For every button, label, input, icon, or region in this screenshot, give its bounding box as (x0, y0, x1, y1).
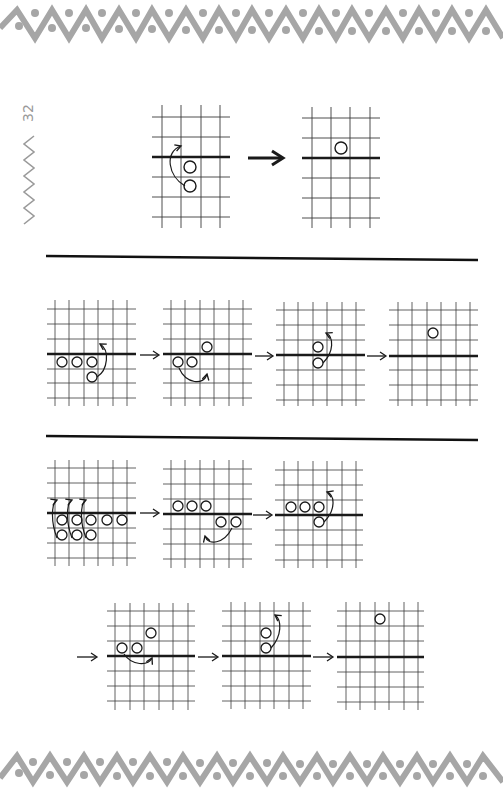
chip (87, 357, 97, 367)
chip (86, 530, 96, 540)
chip (117, 643, 127, 653)
chip (261, 628, 271, 638)
chip (314, 502, 324, 512)
chip (87, 372, 97, 382)
chip (184, 161, 196, 173)
chip (173, 501, 183, 511)
chip (313, 358, 323, 368)
chip (231, 517, 241, 527)
move-arrow (324, 492, 333, 522)
chip (314, 517, 324, 527)
chip (72, 530, 82, 540)
chip (300, 502, 310, 512)
section-1 (152, 105, 380, 228)
chip (286, 502, 296, 512)
chip (132, 643, 142, 653)
chip (184, 180, 196, 192)
chip (187, 357, 197, 367)
section-divider (46, 436, 478, 440)
chip (202, 342, 212, 352)
move-arrow (271, 615, 280, 648)
section-divider (46, 256, 478, 260)
chip (102, 515, 112, 525)
grid-panel (389, 302, 478, 406)
move-arrow (205, 528, 232, 542)
move-arrow (97, 344, 106, 377)
chip (375, 614, 385, 624)
chip (146, 628, 156, 638)
move-arrow (67, 500, 72, 538)
chip (187, 501, 197, 511)
chip (57, 515, 67, 525)
chip (117, 515, 127, 525)
chip (335, 142, 347, 154)
chip (313, 342, 323, 352)
chip (57, 357, 67, 367)
grid-panel (302, 107, 380, 228)
chip (72, 357, 82, 367)
diagram-canvas (0, 0, 503, 792)
chip (173, 357, 183, 367)
chip (428, 328, 438, 338)
chip (201, 501, 211, 511)
move-arrow (179, 368, 207, 382)
section-3 (47, 460, 424, 710)
grid-panel (152, 105, 230, 228)
chip (57, 530, 67, 540)
chip (86, 515, 96, 525)
chip (261, 643, 271, 653)
chip (216, 517, 226, 527)
chip (72, 515, 82, 525)
move-arrow (170, 146, 185, 186)
section-2 (47, 300, 478, 406)
